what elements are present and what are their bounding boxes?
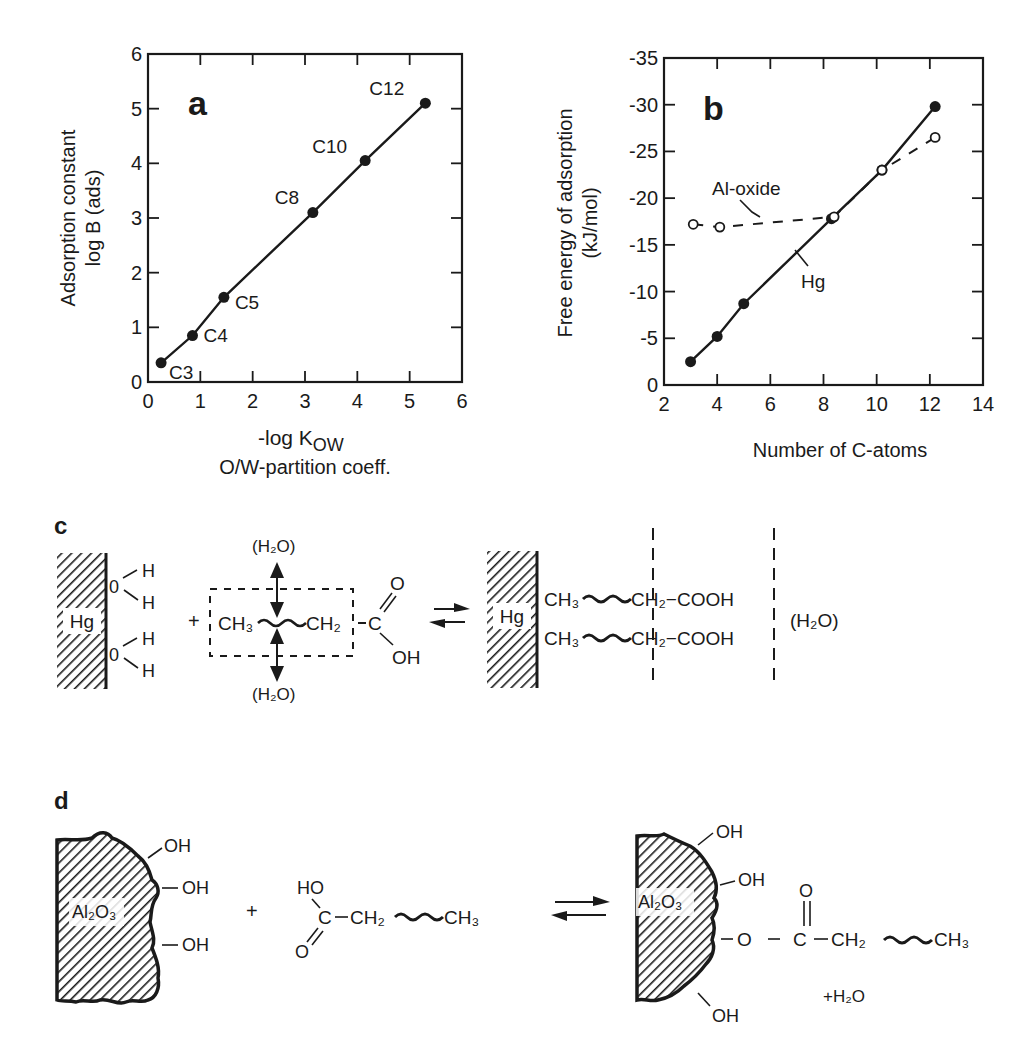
- y-tick-label: 0: [647, 374, 658, 396]
- h2o-top-label: (H₂O): [252, 537, 295, 556]
- panel-label-b: b: [703, 89, 724, 127]
- svg-text:H: H: [142, 629, 155, 649]
- carbon-label-d: C: [318, 907, 332, 928]
- data-point: [930, 101, 941, 112]
- svg-text:CH₂−COOH: CH₂−COOH: [631, 589, 734, 610]
- y-tick-label: -30: [629, 94, 658, 116]
- al2o3-label-left: Al₂O₃: [72, 902, 116, 922]
- plot-a-xlabel: -log KOW: [258, 426, 344, 455]
- y-tick-label: 1: [131, 316, 142, 338]
- ester-ch3-label: CH₃: [934, 929, 969, 950]
- plot-a-tick-labels: 01234560123456: [131, 43, 468, 412]
- oh-left-3: OH: [182, 935, 209, 955]
- h2o-right-label: (H₂O): [790, 610, 839, 631]
- data-point-open: [689, 220, 698, 229]
- series-line-fatty-acids: [161, 103, 425, 363]
- point-label-c10: C10: [312, 136, 347, 157]
- plus-water-label: +H₂O: [823, 987, 865, 1006]
- data-point: [420, 98, 431, 109]
- oh-right-2: OH: [738, 870, 765, 890]
- y-tick-label: 3: [131, 207, 142, 229]
- plot-a-ylabel: Adsorption constant log B (ads): [57, 129, 104, 306]
- plus-sign-d: +: [246, 900, 258, 922]
- plot-b-xlabel: Number of C-atoms: [753, 439, 928, 461]
- plot-a-ylabel-line2: log B (ads): [82, 170, 104, 267]
- data-point-open: [931, 133, 940, 142]
- y-tick-label: 6: [131, 43, 142, 65]
- plot-a-ylabel-line1: Adsorption constant: [57, 129, 79, 306]
- svg-text:0: 0: [109, 577, 119, 597]
- x-tick-label: 12: [919, 393, 941, 415]
- ester-chain-wave: [884, 937, 932, 943]
- plot-b-ylabel-line2: (kJ/mol): [579, 187, 601, 258]
- oh-right-1: OH: [716, 822, 743, 842]
- panel-label-c: c: [54, 512, 67, 539]
- point-label-c5: C5: [235, 292, 259, 313]
- ester-carbonyl-o: O: [799, 881, 813, 901]
- y-tick-label: 2: [131, 262, 142, 284]
- water-molecule-top: 0 H H: [109, 561, 155, 613]
- x-tick-label: 10: [866, 393, 888, 415]
- data-point: [156, 357, 167, 368]
- al2o3-label-right: Al₂O₃: [638, 892, 682, 912]
- carbonyl-o-d: O: [295, 942, 309, 962]
- h2o-bottom-label: (H₂O): [252, 685, 295, 704]
- equilibrium-arrows-c: [429, 603, 470, 628]
- chart-a: 01234560123456 C3C4C5C8C10C12 a Adsorpti…: [57, 43, 468, 478]
- oh-right-3: OH: [712, 1006, 739, 1026]
- adsorbed-chain-top: CH₃ CH₂−COOH: [544, 589, 734, 610]
- x-tick-label: 2: [247, 390, 258, 412]
- data-point: [218, 292, 229, 303]
- data-point-open: [830, 212, 839, 221]
- annotation-al-oxide: Al-oxide: [712, 178, 781, 199]
- data-point: [685, 356, 696, 367]
- equilibrium-arrows-d: [551, 896, 610, 921]
- svg-text:CH₃: CH₃: [544, 589, 579, 610]
- svg-text:H: H: [142, 661, 155, 681]
- series-line-hg: [691, 107, 936, 362]
- ester-o-label: O: [737, 929, 752, 950]
- ch2-label-c: CH₂: [306, 613, 341, 634]
- oh-left-1: OH: [164, 836, 191, 856]
- point-label-c12: C12: [369, 78, 404, 99]
- hg-label-left: Hg: [70, 611, 94, 632]
- plot-a-series: C3C4C5C8C10C12: [156, 78, 431, 383]
- svg-text:CH₃: CH₃: [544, 628, 579, 649]
- point-label-c4: C4: [203, 325, 228, 346]
- y-tick-label: -15: [629, 234, 658, 256]
- x-tick-label: 3: [299, 390, 310, 412]
- y-tick-label: -25: [629, 140, 658, 162]
- annotation-hg-leader: [795, 250, 808, 266]
- ch3-label-c: CH₃: [218, 613, 253, 634]
- carbonyl-o-c: O: [390, 573, 405, 594]
- alkyl-chain-wave-d: [395, 914, 443, 920]
- y-tick-label: 5: [131, 98, 142, 120]
- panel-label-a: a: [188, 84, 208, 122]
- x-tick-label: 5: [404, 390, 415, 412]
- plot-b-ylabel-line1: Free energy of adsorption: [554, 108, 576, 337]
- svg-text:H: H: [142, 561, 155, 581]
- ch3-label-d: CH₃: [444, 907, 479, 928]
- data-point-open: [877, 166, 886, 175]
- data-point: [712, 331, 723, 342]
- y-tick-label: 4: [131, 152, 142, 174]
- x-tick-label: 6: [456, 390, 467, 412]
- panel-label-d: d: [54, 787, 69, 814]
- data-point: [360, 155, 371, 166]
- figure-canvas: 01234560123456 C3C4C5C8C10C12 a Adsorpti…: [0, 0, 1028, 1058]
- alkyl-chain-wave: [258, 620, 306, 626]
- x-tick-label: 4: [352, 390, 363, 412]
- chart-b: 24681012140-5-10-15-20-25-30-35 b Free e…: [554, 47, 994, 461]
- y-tick-label: -5: [640, 327, 658, 349]
- plot-a-xlabel-line2: O/W-partition coeff.: [219, 456, 391, 478]
- annotation-al-oxide-leader: [740, 200, 760, 217]
- plot-b-ylabel: Free energy of adsorption (kJ/mol): [554, 108, 601, 337]
- svg-text:0: 0: [109, 645, 119, 665]
- x-tick-label: 4: [712, 393, 723, 415]
- data-point: [738, 298, 749, 309]
- svg-text:CH₂−COOH: CH₂−COOH: [631, 628, 734, 649]
- x-tick-label: 0: [142, 390, 153, 412]
- annotation-hg: Hg: [801, 271, 825, 292]
- ch2-label-d: CH₂: [350, 907, 385, 928]
- data-point: [187, 330, 198, 341]
